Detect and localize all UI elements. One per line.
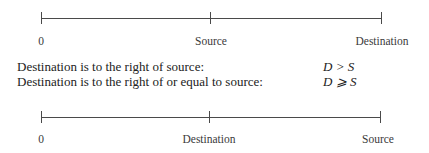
tick-source <box>210 12 211 24</box>
tick-destination <box>381 12 382 24</box>
label-source: Source <box>362 133 394 145</box>
label-destination: Destination <box>182 133 235 145</box>
statement-right-of-source: Destination is to the right of source: <box>17 59 204 75</box>
tick-destination <box>209 111 210 123</box>
label-zero: 0 <box>38 133 44 145</box>
expr-greater-equal: D ⩾ S <box>323 74 356 90</box>
label-source: Source <box>195 35 227 47</box>
label-zero: 0 <box>38 35 44 47</box>
number-line-axis <box>41 117 380 118</box>
number-line-axis <box>41 18 381 19</box>
statement-right-or-equal-source: Destination is to the right of or equal … <box>17 74 263 90</box>
tick-source <box>380 111 381 123</box>
tick-zero <box>41 12 42 24</box>
label-destination: Destination <box>355 35 408 47</box>
tick-zero <box>41 111 42 123</box>
expr-greater-than: D > S <box>323 59 354 75</box>
